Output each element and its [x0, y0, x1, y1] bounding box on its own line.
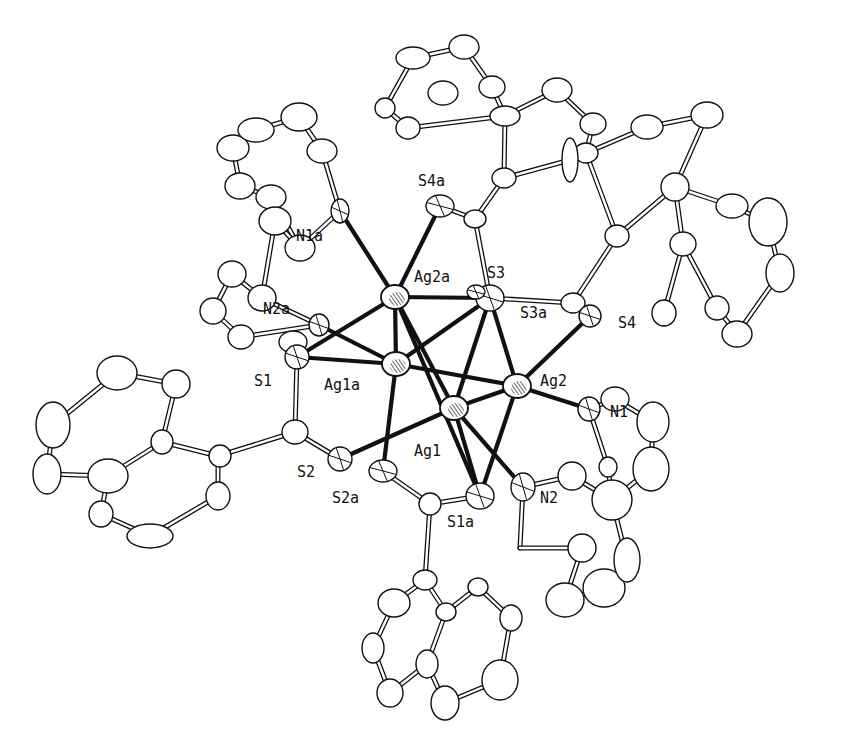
carbon-atom — [605, 225, 629, 247]
label-Ag1: Ag1 — [414, 442, 441, 460]
molecular-structure-drawing: N1aS4aAg2aS3S3aS4N2aS1Ag1aAg2N1Ag1S2S2aS… — [0, 0, 855, 755]
atom-S1 — [285, 345, 309, 369]
carbon-atom — [307, 139, 337, 163]
carbon-atom — [256, 185, 286, 209]
carbon-atom — [375, 98, 395, 118]
label-N2: N2 — [540, 489, 558, 507]
label-S1a: S1a — [447, 513, 474, 531]
label-S3: S3 — [487, 264, 505, 282]
carbon-atom — [431, 686, 459, 720]
atom-Ag2a — [381, 285, 409, 309]
carbon-atom — [281, 103, 317, 131]
label-Ag1a: Ag1a — [324, 376, 360, 394]
carbon-atom — [599, 457, 617, 477]
atom-Ag1a — [382, 352, 410, 376]
carbon-atom — [580, 113, 606, 135]
atom-S1a — [466, 483, 494, 509]
carbon-atom — [200, 298, 226, 324]
carbon-atom — [228, 325, 254, 349]
carbon-atom — [33, 454, 61, 494]
carbon-atom — [89, 501, 113, 527]
label-S3a: S3a — [520, 304, 547, 322]
carbon-atom — [492, 168, 516, 188]
carbon-atom — [633, 447, 669, 491]
atom-Ag2 — [503, 374, 531, 398]
carbon-atom — [490, 106, 520, 126]
carbon-atom — [546, 583, 584, 617]
carbon-atom — [419, 493, 441, 515]
label-Ag2: Ag2 — [540, 372, 567, 390]
atom-S2a — [369, 460, 397, 482]
carbon-atom — [218, 261, 246, 287]
carbon-atom — [209, 445, 231, 467]
carbon-atom — [614, 538, 640, 582]
carbon-atom — [97, 356, 137, 390]
label-N1a: N1a — [296, 227, 323, 245]
carbon-atom — [428, 81, 458, 105]
label-S4: S4 — [618, 314, 636, 332]
carbon-atom — [396, 117, 420, 139]
organic-bonds — [47, 47, 780, 703]
label-N2a: N2a — [263, 300, 290, 318]
atom-N2 — [511, 473, 535, 501]
carbon-atom — [479, 76, 505, 98]
label-Ag2a: Ag2a — [414, 268, 450, 286]
carbon-atom — [705, 296, 729, 320]
label-S2a: S2a — [332, 489, 359, 507]
carbon-atom — [592, 480, 632, 520]
atom-S3a — [467, 285, 485, 299]
carbon-atom — [378, 589, 410, 617]
carbon-atom — [670, 232, 696, 256]
carbon-atom — [631, 115, 663, 139]
organic-bond — [573, 236, 617, 303]
carbon-atom — [36, 402, 70, 448]
carbon-atom — [206, 482, 230, 510]
bond-Ag1a-Ag2 — [396, 364, 517, 386]
atom-N2a — [309, 314, 329, 336]
carbon-atom — [436, 603, 456, 621]
carbon-atom — [562, 138, 578, 182]
atom-S2 — [328, 447, 352, 471]
bond-Ag1-S3 — [454, 298, 490, 408]
atom-S4a — [426, 195, 454, 217]
carbon-atom — [568, 534, 596, 562]
carbon-atom — [464, 210, 486, 228]
carbon-atom — [88, 459, 128, 493]
carbon-atom — [482, 660, 518, 700]
bond-Ag1a-S2a — [383, 364, 396, 471]
carbon-atom — [282, 420, 308, 444]
carbon-atom — [162, 370, 190, 398]
carbon-atom — [151, 430, 173, 454]
carbon-atom — [637, 402, 669, 442]
bond-Ag2a-N1a — [340, 211, 395, 297]
bond-Ag2a-S1a — [395, 297, 480, 496]
label-S4a: S4a — [418, 172, 445, 190]
organic-bond — [586, 153, 617, 236]
atom-N1a — [331, 199, 349, 223]
carbon-atom — [413, 570, 437, 590]
carbon-atom — [661, 173, 689, 201]
carbon-atom — [722, 321, 752, 347]
label-S2: S2 — [297, 463, 315, 481]
carbon-atom — [749, 198, 787, 246]
carbon-atom — [500, 605, 522, 631]
carbon-atom — [377, 679, 403, 707]
carbon-atom — [558, 462, 586, 490]
label-S1: S1 — [254, 372, 272, 390]
carbon-atom — [652, 300, 676, 326]
atom-Ag1 — [440, 396, 468, 420]
carbon-atom — [396, 47, 430, 69]
carbon-atom — [468, 578, 488, 596]
carbon-atom — [449, 35, 479, 59]
carbon-atom — [238, 118, 274, 142]
carbon-atom — [542, 78, 572, 102]
carbon-atom — [691, 102, 723, 128]
carbon-atom — [225, 173, 255, 199]
carbon-atom — [416, 650, 438, 678]
ortep-figure: N1aS4aAg2aS3S3aS4N2aS1Ag1aAg2N1Ag1S2S2aS… — [0, 0, 855, 755]
carbon-atom — [766, 254, 794, 292]
atom-N1 — [578, 397, 600, 421]
atom-S4 — [579, 305, 601, 327]
carbon-atom — [127, 524, 173, 548]
carbon-atom — [259, 207, 291, 235]
